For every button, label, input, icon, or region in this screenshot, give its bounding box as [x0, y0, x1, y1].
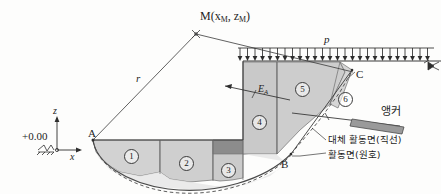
- leader-alt-slip: [312, 128, 326, 140]
- leader-slip-2: [300, 153, 326, 156]
- label-earth-pressure-EA: EA: [258, 84, 268, 95]
- slice-number-3: 3: [221, 163, 236, 178]
- label-datum-elevation: +0.00: [22, 131, 47, 142]
- label-point-A: A: [88, 128, 96, 139]
- surcharge-load-arrows: [238, 48, 434, 61]
- coordinate-axes: [55, 116, 82, 152]
- label-point-M: M(xM, zM): [200, 10, 250, 24]
- axis-x-arrowhead: [76, 148, 82, 153]
- slope-stability-diagram: M(xM, zM) r p EA A B C +0.00 z x 앵커 대체 활…: [0, 0, 441, 194]
- label-axis-x: x: [70, 152, 74, 162]
- slice-number-1: 1: [124, 149, 139, 164]
- label-anchor: 앵커: [381, 106, 401, 117]
- label-axis-z: z: [53, 106, 57, 116]
- label-surcharge-p: p: [324, 34, 330, 45]
- radius-line-M-to-A: [93, 34, 196, 140]
- point-C-marker: [351, 69, 354, 72]
- anchor-bar: [350, 119, 404, 134]
- slice-number-6: 6: [338, 92, 353, 107]
- label-radius-r: r: [136, 73, 140, 84]
- diagram-canvas: [0, 0, 441, 194]
- label-point-C: C: [356, 69, 363, 80]
- label-point-B: B: [281, 159, 288, 170]
- slice-number-2: 2: [179, 156, 194, 171]
- slice-number-4: 4: [252, 115, 267, 130]
- label-slip-surface: 활동면(원호): [328, 150, 380, 160]
- axis-z-arrowhead: [55, 116, 60, 122]
- slice-4-fill: [243, 62, 277, 154]
- slice-number-5: 5: [295, 82, 310, 97]
- point-B-marker: [290, 153, 293, 156]
- label-alternative-slip-surface: 대체 활동면(직선): [328, 135, 401, 145]
- datum-ground-symbol: [37, 145, 54, 155]
